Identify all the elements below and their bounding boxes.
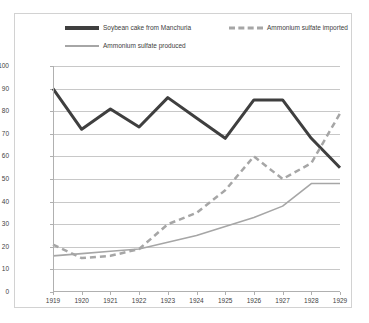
x-axis-tick-mark [110,292,111,295]
y-axis-tick-label: 10 [0,266,9,273]
legend-label: Soybean cake from Manchuria [103,25,191,32]
y-axis-tick-label: 60 [0,153,9,160]
y-axis-tick-label: 20 [0,244,9,251]
x-axis-tick-mark [340,292,341,295]
x-axis-tick-mark [82,292,83,295]
series-lines [53,66,340,292]
x-axis-tick-mark [53,292,54,295]
legend-label: Ammonium sulfate produced [103,43,186,50]
chart-legend: Soybean cake from Manchuria Ammonium sul… [15,14,351,60]
legend-entry-soybean-cake: Soybean cake from Manchuria [65,23,191,33]
series-line-1 [53,113,340,258]
series-line-0 [53,89,340,168]
y-axis-tick-label: 70 [0,131,9,138]
plot-area: 0102030405060708090100 19191920192119221… [53,66,340,292]
legend-swatch-icon [65,23,99,33]
x-axis-tick-mark [311,292,312,295]
legend-entry-ammonium-sulfate-imported: Ammonium sulfate imported [229,23,348,33]
legend-swatch-icon [65,41,99,51]
x-axis-tick-mark [197,292,198,295]
x-axis-tick-mark [254,292,255,295]
y-axis-tick-label: 100 [0,63,9,70]
y-axis-tick-label: 0 [0,289,9,296]
legend-swatch-icon [229,23,263,33]
x-axis-tick-mark [139,292,140,295]
x-axis-tick-mark [168,292,169,295]
series-line-2 [53,184,340,256]
y-axis-tick-label: 90 [0,85,9,92]
y-axis-tick-label: 40 [0,198,9,205]
x-axis-tick-mark [225,292,226,295]
y-axis-tick-label: 30 [0,221,9,228]
chart-container: Soybean cake from Manchuria Ammonium sul… [14,13,352,308]
legend-entry-ammonium-sulfate-produced: Ammonium sulfate produced [65,41,186,51]
x-axis-tick-label: 1929 [320,298,360,305]
legend-label: Ammonium sulfate imported [267,25,348,32]
y-axis-tick-label: 80 [0,108,9,115]
y-axis-tick-label: 50 [0,176,9,183]
x-axis-tick-mark [283,292,284,295]
